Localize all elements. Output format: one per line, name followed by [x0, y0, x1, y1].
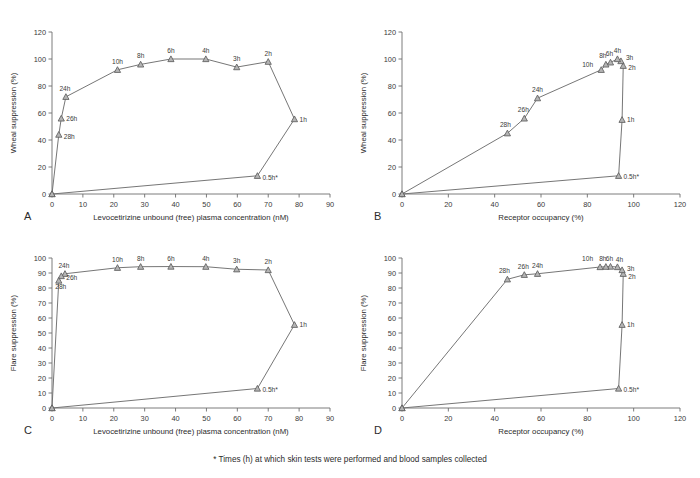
- data-point-label: 24h: [58, 262, 69, 269]
- x-tick-label: 90: [326, 414, 334, 423]
- x-tick-label: 60: [233, 200, 241, 209]
- x-tick-label: 100: [627, 200, 639, 209]
- y-tick-label: 40: [388, 344, 396, 353]
- data-point-label: 24h: [59, 85, 70, 92]
- y-tick-label: 80: [38, 82, 46, 91]
- y-tick-label: 50: [38, 329, 46, 338]
- data-point-marker: [265, 59, 271, 65]
- y-tick-label: 20: [38, 163, 46, 172]
- y-tick-label: 120: [384, 28, 396, 37]
- x-tick-label: 0: [400, 200, 404, 209]
- data-point-label: 26h: [66, 274, 77, 281]
- data-point-label: 10h: [112, 58, 123, 65]
- data-point-label: 0.5h*: [624, 173, 640, 180]
- x-tick-label: 40: [491, 414, 499, 423]
- y-tick-label: 80: [388, 284, 396, 293]
- x-tick-label: 20: [444, 414, 452, 423]
- y-tick-label: 60: [388, 109, 396, 118]
- x-tick-label: 80: [295, 200, 303, 209]
- y-tick-label: 10: [388, 389, 396, 398]
- y-tick-label: 0: [392, 404, 396, 413]
- data-point-label: 1h: [627, 321, 635, 328]
- data-point-label: 0.5h*: [262, 386, 278, 393]
- data-point-label: 3h: [233, 257, 241, 264]
- panel-A-plot: 0204060801001200102030405060708090Levoce…: [0, 2, 350, 240]
- x-tick-label: 120: [674, 200, 686, 209]
- x-tick-label: 60: [537, 200, 545, 209]
- figure-footnote: * Times (h) at which skin tests were per…: [0, 455, 700, 464]
- data-point-marker: [607, 59, 613, 65]
- data-point-label: 8h: [137, 255, 145, 262]
- data-point-marker: [63, 94, 69, 100]
- panel-C-plot: 0102030405060708090100010203040506070809…: [0, 238, 350, 453]
- x-tick-label: 50: [202, 200, 210, 209]
- x-tick-label: 60: [537, 414, 545, 423]
- y-axis-title: Wheal suppression (%): [359, 72, 368, 153]
- data-point-label: 2h: [265, 258, 273, 265]
- data-point-label: 24h: [532, 262, 543, 269]
- x-tick-label: 40: [171, 200, 179, 209]
- x-axis-title: Receptor occupancy (%): [498, 427, 584, 436]
- y-tick-label: 0: [392, 190, 396, 199]
- x-tick-label: 80: [583, 200, 591, 209]
- x-tick-label: 70: [264, 200, 272, 209]
- data-point-label: 3h: [233, 55, 241, 62]
- x-tick-label: 20: [110, 414, 118, 423]
- x-tick-label: 80: [583, 414, 591, 423]
- data-point-label: 3h: [626, 54, 634, 61]
- data-point-marker: [58, 115, 64, 121]
- panel-letter: B: [374, 210, 381, 222]
- data-point-label: 26h: [518, 263, 529, 270]
- x-tick-label: 100: [627, 414, 639, 423]
- x-tick-label: 60: [233, 414, 241, 423]
- panel-letter: D: [374, 424, 382, 436]
- x-tick-label: 10: [79, 414, 87, 423]
- panel-letter: C: [24, 424, 32, 436]
- data-point-label: 2h: [628, 273, 636, 280]
- x-tick-label: 0: [50, 414, 54, 423]
- x-tick-label: 30: [141, 414, 149, 423]
- y-tick-label: 100: [34, 55, 46, 64]
- y-tick-label: 10: [38, 389, 46, 398]
- data-point-marker: [56, 132, 62, 138]
- y-tick-label: 20: [38, 374, 46, 383]
- y-tick-label: 90: [38, 269, 46, 278]
- data-point-label: 2h: [628, 64, 636, 71]
- data-point-label: 28h: [64, 133, 75, 140]
- x-tick-label: 20: [110, 200, 118, 209]
- data-point-label: 1h: [299, 321, 307, 328]
- data-point-label: 4h: [202, 255, 210, 262]
- y-tick-label: 50: [388, 329, 396, 338]
- y-axis-title: Flare suppression (%): [9, 294, 18, 371]
- x-axis-title: Receptor occupancy (%): [498, 213, 584, 222]
- data-point-marker: [614, 56, 620, 62]
- data-point-label: 28h: [500, 121, 511, 128]
- data-point-label: 0.5h*: [624, 386, 640, 393]
- data-point-label: 28h: [55, 283, 66, 290]
- data-point-label: 1h: [299, 116, 307, 123]
- data-point-label: 24h: [532, 86, 543, 93]
- y-tick-label: 0: [42, 404, 46, 413]
- y-tick-label: 60: [388, 314, 396, 323]
- series-line: [402, 267, 623, 408]
- panel-D-plot: 0102030405060708090100020406080100120Rec…: [350, 238, 700, 453]
- data-point-label: 10h: [582, 255, 593, 262]
- data-point-label: 26h: [66, 115, 77, 122]
- data-point-label: 6h: [167, 255, 175, 262]
- x-tick-label: 50: [202, 414, 210, 423]
- series-line: [402, 59, 623, 194]
- data-point-label: 4h: [616, 256, 624, 263]
- data-point-label: 8h: [599, 255, 607, 262]
- y-tick-label: 80: [38, 284, 46, 293]
- data-point-marker: [619, 117, 625, 123]
- x-axis-title: Levocetirizine unbound (free) plasma con…: [93, 427, 289, 436]
- data-point-label: 8h: [137, 52, 145, 59]
- x-tick-label: 90: [326, 200, 334, 209]
- panel-C: 0102030405060708090100010203040506070809…: [0, 238, 350, 453]
- y-tick-label: 30: [38, 359, 46, 368]
- x-tick-label: 70: [264, 414, 272, 423]
- data-point-label: 2h: [265, 50, 273, 57]
- y-tick-label: 20: [388, 374, 396, 383]
- y-tick-label: 60: [38, 109, 46, 118]
- data-point-marker: [534, 95, 540, 101]
